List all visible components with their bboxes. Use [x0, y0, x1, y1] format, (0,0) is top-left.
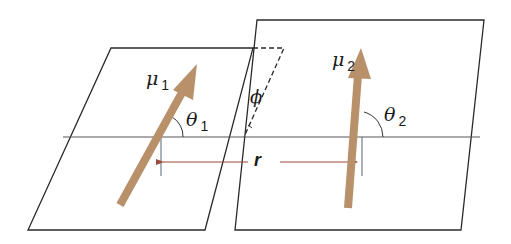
mu2-symbol: μ: [332, 48, 344, 70]
mu1-symbol: μ: [146, 67, 158, 89]
theta2-index: 2: [398, 113, 406, 129]
theta1-label: θ1: [186, 110, 208, 129]
phi-label: ϕ: [250, 88, 262, 106]
mu1-index: 1: [161, 77, 169, 93]
phi-arc: [248, 125, 252, 128]
dipole-diagram: [0, 0, 511, 244]
plane-1: [28, 48, 253, 230]
r-label: r: [254, 151, 261, 169]
mu2-label: μ2: [332, 50, 355, 69]
theta1-symbol: θ: [186, 108, 197, 130]
theta2-arc: [364, 112, 383, 137]
r-symbol: r: [254, 150, 261, 170]
theta1-index: 1: [200, 118, 208, 134]
phi-symbol: ϕ: [250, 86, 262, 107]
mu2-index: 2: [347, 58, 355, 74]
mu1-label: μ1: [146, 69, 169, 88]
theta2-label: θ2: [384, 105, 406, 124]
theta2-symbol: θ: [384, 103, 395, 125]
